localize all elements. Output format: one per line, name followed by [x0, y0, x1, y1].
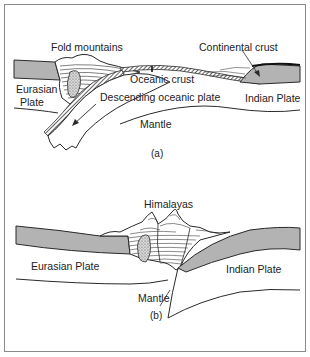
label-fold-mountains: Fold mountains	[51, 41, 123, 53]
eurasian-plate-base-line-b	[16, 279, 168, 284]
label-himalayas: Himalayas	[144, 198, 193, 210]
indian-plate-base-line-b	[168, 289, 300, 318]
label-continental-crust: Continental crust	[199, 41, 278, 53]
indian-plate-block-a	[240, 64, 300, 84]
eurasian-plate-base-line-a	[14, 108, 58, 113]
label-eurasian-plate-line2: Plate	[20, 96, 44, 108]
caption-b: (b)	[150, 310, 162, 321]
eurasian-plate-block-b	[16, 226, 130, 254]
label-mantle-b: Mantle	[138, 292, 170, 304]
label-eurasian-plate-line1: Eurasian	[16, 83, 57, 95]
label-indian-plate-a: Indian Plate	[245, 92, 300, 104]
intrusion-b	[138, 235, 151, 262]
eurasian-plate-block-a	[14, 60, 60, 80]
label-mantle-a: Mantle	[140, 118, 172, 130]
label-eurasian-plate-b: Eurasian Plate	[31, 260, 99, 272]
label-descending-oceanic-plate: Descending oceanic plate	[100, 91, 220, 103]
caption-a: (a)	[151, 148, 163, 159]
label-oceanic-crust: Oceanic crust	[130, 73, 194, 85]
label-indian-plate-b: Indian Plate	[226, 263, 281, 275]
